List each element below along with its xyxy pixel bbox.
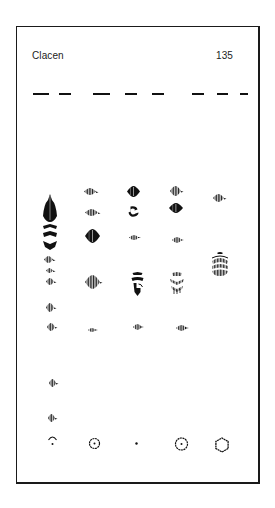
dash-mark (152, 93, 164, 95)
lozenge-glyph-icon (45, 375, 60, 391)
dash-mark (192, 93, 204, 95)
dash-mark (217, 93, 228, 95)
lozenge-small-glyph-icon (168, 233, 186, 247)
dash-mark (240, 93, 248, 95)
tall-stack-glyph-icon (39, 190, 61, 254)
stacked-v-glyph-icon (166, 268, 188, 298)
lozenge-glyph-icon (43, 319, 59, 335)
arc-dot-glyph-icon (44, 432, 61, 450)
lozenge-glyph-icon (42, 299, 58, 316)
lozenge-glyph-icon (81, 205, 102, 220)
lozenge-small-glyph-icon (172, 321, 191, 335)
lozenge-solid-glyph-icon (81, 225, 104, 247)
circle-dot-glyph-icon (171, 434, 192, 454)
dash-mark (93, 93, 110, 95)
lozenge-solid-glyph-icon (123, 182, 144, 201)
lozenge-small-glyph-icon (129, 320, 146, 334)
lozenge-small-glyph-icon (125, 231, 143, 244)
hexagon-glyph-icon (211, 434, 233, 456)
page-number: 135 (216, 50, 233, 61)
lozenge-solid-glyph-icon (165, 199, 187, 217)
dot-glyph-icon (131, 438, 142, 449)
lozenge-glyph-icon (44, 410, 59, 426)
lozenge-glyph-icon (42, 274, 58, 289)
stacked-dome-glyph-icon (207, 248, 233, 280)
swirl-glyph-icon (124, 202, 143, 221)
lozenge-glyph-icon (209, 190, 228, 206)
lozenge-glyph-icon (166, 182, 185, 200)
page-title: Clacen (32, 50, 64, 61)
lozenge-glyph-icon (80, 184, 100, 199)
stacked-t-glyph-icon (127, 268, 148, 300)
dash-mark (59, 93, 71, 95)
lozenge-glyph-icon (81, 271, 104, 293)
circle-dot-glyph-icon (85, 434, 104, 453)
dash-mark (33, 93, 49, 95)
lozenge-small-glyph-icon (84, 324, 100, 336)
dash-mark (125, 93, 137, 95)
